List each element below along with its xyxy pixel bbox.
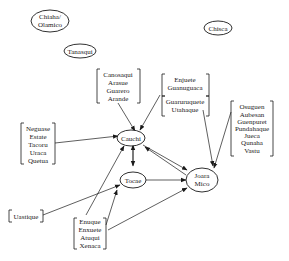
edge-enuque-cauchi bbox=[86, 146, 124, 215]
group-label: Xenaca bbox=[80, 242, 102, 250]
diagram-canvas: Chiaha/ Olamico Tanasqui Chisca Cauchi T… bbox=[0, 0, 289, 261]
group-label: Vastu bbox=[244, 147, 260, 155]
group-label: Enuque bbox=[79, 218, 100, 226]
edge-neguase-cauchi bbox=[55, 136, 118, 143]
group-enuque: Enuque Enxuete Atuqui Xenaca bbox=[74, 218, 106, 250]
edge-enjuete-cauchi bbox=[140, 95, 160, 130]
edge-enuque-tocae bbox=[106, 190, 117, 225]
group-guaruruquete: Guaruruquete Utahaque bbox=[162, 96, 209, 116]
group-label: Quetua bbox=[28, 157, 49, 165]
node-chiaha: Chiaha/ Olamico bbox=[31, 10, 69, 32]
group-label: Estate bbox=[29, 133, 46, 141]
node-label: Chiaha/ bbox=[39, 13, 61, 21]
node-cauchi: Cauchi bbox=[117, 130, 145, 146]
group-osuguen: Osuguen Aubesan Guenpuret Pundahaque Jue… bbox=[231, 101, 273, 156]
group-canosaqui: Canosaqui Arasue Guarero Arande bbox=[97, 69, 140, 103]
group-neguase: Neguase Estate Tacoru Uraca Quetua bbox=[21, 123, 55, 165]
node-chisca: Chisca bbox=[204, 21, 232, 35]
group-enjuete: Enjuete Guanuguaca bbox=[162, 74, 209, 96]
group-label: Qunaha bbox=[241, 139, 264, 147]
edge-uastique-tocae bbox=[43, 185, 120, 215]
node-label: Tanasqui bbox=[67, 48, 92, 56]
node-label: Joara bbox=[195, 172, 211, 180]
node-label: Olamico bbox=[38, 21, 63, 29]
group-label: Guanuguaca bbox=[168, 84, 204, 92]
group-label: Canosaqui bbox=[103, 71, 133, 79]
edge-cauchi-joara bbox=[143, 145, 187, 170]
group-label: Osuguen bbox=[240, 103, 265, 111]
node-tocae: Tocae bbox=[120, 172, 146, 188]
group-uastique: Uastique bbox=[9, 210, 43, 222]
group-label: Guaruruquete bbox=[166, 98, 204, 106]
edge-canosaqui-cauchi bbox=[118, 103, 135, 131]
node-tanasqui: Tanasqui bbox=[64, 44, 96, 58]
group-label: Uraca bbox=[30, 149, 48, 157]
edge-joara-cauchi bbox=[145, 147, 186, 175]
edge-osuguen-joara bbox=[214, 112, 231, 168]
edge-enuque-joara bbox=[108, 188, 187, 230]
group-label: Tacoru bbox=[28, 141, 48, 149]
node-label: Tocae bbox=[125, 177, 142, 185]
group-label: Arasue bbox=[108, 79, 128, 87]
node-label: Chisca bbox=[208, 25, 228, 33]
edge-guaruruquete-joara bbox=[203, 110, 213, 166]
node-label: Mico bbox=[195, 180, 210, 188]
group-label: Atuqui bbox=[80, 234, 100, 242]
group-label: Enjuete bbox=[174, 76, 195, 84]
node-label: Cauchi bbox=[121, 135, 141, 143]
node-joara: Joara Mico bbox=[186, 168, 218, 192]
group-label: Neguase bbox=[26, 125, 50, 133]
group-label: Uastique bbox=[14, 213, 39, 221]
group-label: Enxuete bbox=[79, 226, 102, 234]
group-label: Guarero bbox=[107, 87, 130, 95]
edges bbox=[43, 95, 231, 230]
group-label: Arande bbox=[108, 95, 129, 103]
group-label: Utahaque bbox=[172, 106, 199, 114]
